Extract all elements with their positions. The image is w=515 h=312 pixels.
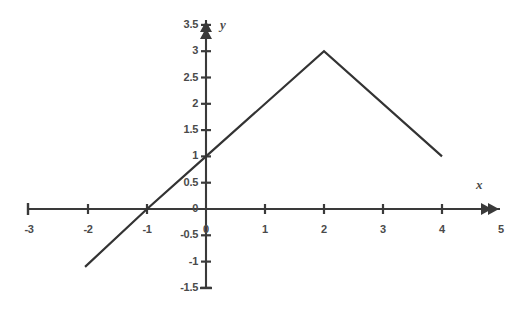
y-tick-label: 0 bbox=[154, 202, 198, 214]
x-tick-label: 2 bbox=[310, 223, 338, 235]
y-tick-label: 2.5 bbox=[154, 71, 198, 83]
y-tick-label: 1.5 bbox=[154, 123, 198, 135]
x-tick-label: -2 bbox=[74, 223, 102, 235]
chart-canvas: -3-2-1012345-1.5-1-0.500.511.522.533.5 x… bbox=[0, 0, 515, 312]
x-tick-label: 5 bbox=[487, 223, 515, 235]
coordinate-plane-svg bbox=[0, 0, 515, 312]
x-axis-label: x bbox=[476, 177, 483, 193]
y-axis-label: y bbox=[220, 17, 226, 33]
y-tick-label: -0.5 bbox=[154, 228, 198, 240]
y-tick-label: 2 bbox=[154, 97, 198, 109]
x-tick-label: 1 bbox=[251, 223, 279, 235]
y-tick-label: 0.5 bbox=[154, 176, 198, 188]
x-tick-label: -3 bbox=[15, 223, 43, 235]
x-tick-label: 3 bbox=[369, 223, 397, 235]
y-tick-label: 3.5 bbox=[154, 18, 198, 30]
x-tick-label: 4 bbox=[428, 223, 456, 235]
y-tick-label: 1 bbox=[154, 149, 198, 161]
axes-group bbox=[28, 20, 500, 288]
y-tick-label: -1 bbox=[154, 255, 198, 267]
axis-ticks-group bbox=[88, 25, 442, 288]
y-tick-label: 3 bbox=[154, 44, 198, 56]
y-tick-label: -1.5 bbox=[154, 281, 198, 293]
